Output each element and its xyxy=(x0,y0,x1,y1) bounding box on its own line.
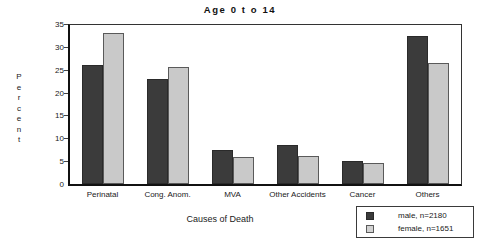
bar-group xyxy=(147,24,189,184)
bars-layer xyxy=(70,24,460,184)
y-axis-label-letter: n xyxy=(12,125,26,136)
legend-label-female: female, n=1651 xyxy=(398,224,453,233)
female-swatch-icon xyxy=(366,225,374,233)
bar-female xyxy=(103,33,124,184)
bar-group xyxy=(342,24,384,184)
bar-male xyxy=(342,161,363,184)
bar-female xyxy=(233,157,254,184)
bar-group xyxy=(82,24,124,184)
bar-male xyxy=(82,65,103,184)
y-axis-label-letter: c xyxy=(12,104,26,115)
bar-male xyxy=(277,145,298,184)
bar-female xyxy=(428,63,449,184)
chart-title: Age 0 t o 14 xyxy=(0,4,480,15)
y-axis-tick-label: 30 xyxy=(42,42,64,51)
bar-female xyxy=(298,156,319,184)
y-axis-label-letter: e xyxy=(12,114,26,125)
bar-chart: Age 0 t o 14 Percent 05101520253035 Peri… xyxy=(0,0,480,244)
y-axis-label-letter: P xyxy=(12,72,26,83)
legend-label-male: male, n=2180 xyxy=(398,211,447,220)
x-axis-title: Causes of Death xyxy=(120,214,320,224)
bar-female xyxy=(168,67,189,184)
bar-group xyxy=(212,24,254,184)
bar-group xyxy=(277,24,319,184)
legend: male, n=2180 female, n=1651 xyxy=(356,206,474,238)
y-axis-tick-label: 20 xyxy=(42,88,64,97)
y-axis-label-letter: r xyxy=(12,93,26,104)
y-axis-tick-label: 35 xyxy=(42,20,64,29)
y-axis-tick-label: 5 xyxy=(42,157,64,166)
legend-item-female: female, n=1651 xyxy=(357,222,473,235)
bar-male xyxy=(407,36,428,184)
y-axis-tick-label: 10 xyxy=(42,134,64,143)
bar-male xyxy=(147,79,168,184)
y-axis-label: Percent xyxy=(12,72,26,146)
y-axis-tick-label: 0 xyxy=(42,180,64,189)
bar-male xyxy=(212,150,233,184)
male-swatch-icon xyxy=(366,212,374,220)
y-axis-tick-label: 25 xyxy=(42,65,64,74)
bar-female xyxy=(363,163,384,184)
y-axis-label-letter: t xyxy=(12,135,26,146)
y-axis-tick-label: 15 xyxy=(42,111,64,120)
y-axis-label-letter: e xyxy=(12,83,26,94)
bar-group xyxy=(407,24,449,184)
legend-item-male: male, n=2180 xyxy=(357,209,473,222)
x-axis-tick-label: Others xyxy=(378,190,478,199)
